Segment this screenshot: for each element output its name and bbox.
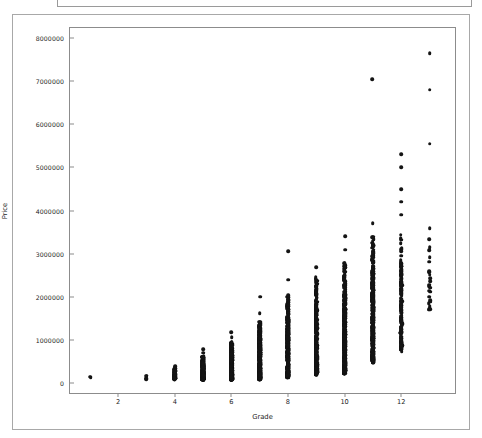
y-tick-label: 3000000 (36, 250, 64, 257)
y-tick-mark (70, 210, 74, 211)
scatter-point (343, 358, 347, 362)
scatter-point (399, 283, 403, 287)
scatter-point (428, 273, 432, 277)
scatter-point (400, 322, 404, 326)
scatter-point (371, 77, 375, 81)
scatter-point (287, 349, 291, 353)
scatter-point (372, 315, 376, 319)
scatter-point (399, 331, 403, 335)
scatter-point (370, 320, 374, 324)
scatter-point (315, 341, 319, 345)
scatter-point (314, 328, 318, 332)
scatter-point (315, 337, 319, 341)
scatter-point (371, 236, 375, 240)
x-tick-label: 8 (286, 398, 290, 406)
scatter-point (400, 314, 404, 318)
scatter-point (371, 331, 375, 335)
scatter-point (400, 200, 404, 204)
scatter-point (314, 362, 318, 366)
scatter-point (343, 326, 347, 330)
y-tick-mark (70, 253, 74, 254)
x-tick-label: 4 (173, 398, 177, 406)
scatter-point (315, 266, 319, 270)
scatter-point (342, 334, 346, 338)
scatter-point (400, 273, 404, 277)
scatter-point (258, 336, 262, 340)
scatter-point (371, 325, 375, 329)
x-tick-mark (287, 393, 288, 397)
scatter-point (371, 272, 375, 276)
x-tick-mark (401, 393, 402, 397)
scatter-point (371, 254, 375, 258)
scatter-point (315, 370, 319, 374)
scatter-point (400, 254, 404, 258)
scatter-point (400, 166, 404, 170)
scatter-point (400, 287, 404, 291)
plot-axes: 0100000020000003000000400000050000006000… (69, 27, 456, 394)
scatter-point (201, 373, 205, 377)
scatter-point (259, 360, 263, 364)
scatter-point (88, 375, 92, 379)
scatter-point (428, 88, 432, 92)
scatter-point (286, 363, 290, 367)
scatter-point (371, 222, 375, 226)
scatter-point (371, 264, 375, 268)
scatter-point (286, 355, 290, 359)
scatter-point (371, 289, 375, 293)
scatter-point (230, 340, 234, 344)
y-tick-label: 2000000 (36, 293, 64, 300)
scatter-point (229, 352, 233, 356)
scatter-point (343, 309, 347, 313)
scatter-point (286, 326, 290, 330)
scatter-point (343, 342, 347, 346)
scatter-point (173, 370, 177, 374)
scatter-point (229, 368, 233, 372)
scatter-point (202, 365, 206, 369)
scatter-point (427, 295, 431, 299)
scatter-point (427, 237, 431, 241)
scatter-point (286, 373, 290, 377)
y-tick-mark (70, 339, 74, 340)
scatter-point (399, 309, 403, 313)
y-tick-mark (70, 296, 74, 297)
scatter-point (314, 322, 318, 326)
y-axis-label: Price (1, 203, 9, 220)
scatter-point (427, 260, 431, 264)
scatter-point (229, 330, 233, 334)
scatter-point (399, 319, 403, 323)
y-tick-mark (70, 81, 74, 82)
scatter-point (399, 237, 403, 241)
scatter-point (314, 277, 318, 281)
scatter-point (428, 142, 432, 146)
scatter-point (371, 298, 375, 302)
scatter-point (400, 339, 404, 343)
x-axis-label: Grade (69, 413, 456, 421)
scatter-point (343, 370, 347, 374)
scatter-point (315, 307, 319, 311)
scatter-point (230, 375, 234, 379)
scatter-point (428, 246, 432, 250)
scatter-point (342, 361, 346, 365)
y-tick-label: 7000000 (36, 78, 64, 85)
scatter-point (342, 300, 346, 304)
y-tick-mark (70, 124, 74, 125)
scatter-point (287, 294, 291, 298)
scatter-point (371, 306, 375, 310)
chart-figure: Price Grade 0100000020000003000000400000… (12, 14, 470, 430)
scatter-point (371, 342, 375, 346)
clipped-element-above (57, 0, 472, 7)
y-tick-mark (70, 383, 74, 384)
scatter-point (257, 353, 261, 357)
scatter-point (428, 51, 432, 55)
scatter-point (258, 295, 262, 299)
scatter-point (258, 311, 262, 315)
scatter-point (201, 348, 205, 352)
scatter-point (286, 278, 290, 282)
scatter-point (399, 248, 403, 252)
x-tick-mark (231, 393, 232, 397)
scatter-point (286, 335, 290, 339)
scatter-point (259, 320, 263, 324)
scatter-point (229, 359, 233, 363)
scatter-point (372, 347, 376, 351)
scatter-point (371, 294, 375, 298)
